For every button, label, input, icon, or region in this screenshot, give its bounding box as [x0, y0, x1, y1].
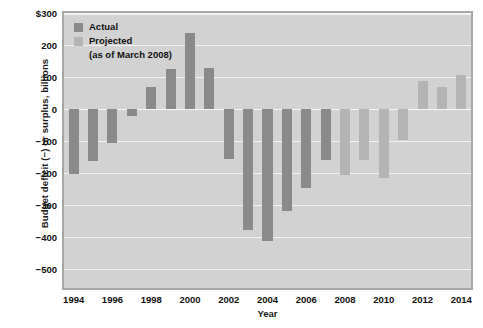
y-tick-label: −300 [9, 199, 57, 210]
budget-deficit-chart: Budget deficit (−) or surplus, billions … [0, 0, 483, 328]
legend-swatch-projected-icon [74, 37, 83, 46]
bar-1995 [88, 109, 98, 161]
bar-2010 [379, 109, 389, 178]
legend-label-projected-sublabel: (as of March 2008) [89, 48, 172, 62]
bar-2005 [282, 109, 292, 211]
bar-2009 [359, 109, 369, 160]
x-tick-label: 2000 [179, 294, 200, 305]
y-tick-label: $300 [9, 8, 57, 19]
y-tick-label: −400 [9, 231, 57, 242]
legend-label-actual: Actual [89, 20, 118, 34]
bar-1997 [127, 109, 137, 116]
bar-2000 [185, 33, 195, 108]
legend-label-projected: Projected [89, 34, 132, 48]
gridline [64, 13, 471, 15]
bar-2012 [418, 81, 428, 109]
legend-item-actual: Actual [74, 20, 172, 34]
bar-2004 [262, 109, 272, 241]
bar-1996 [107, 109, 117, 143]
bar-2014 [456, 75, 466, 109]
x-tick-label: 2004 [257, 294, 278, 305]
x-tick-label: 2006 [296, 294, 317, 305]
y-tick-label: −100 [9, 135, 57, 146]
gridline [64, 77, 471, 79]
x-tick-label: 1998 [141, 294, 162, 305]
x-tick-label: 1996 [102, 294, 123, 305]
x-tick-label: 2002 [218, 294, 239, 305]
y-tick-label: −500 [9, 263, 57, 274]
bar-2002 [224, 109, 234, 160]
y-tick-label: −200 [9, 167, 57, 178]
chart-legend: Actual Projected (as of March 2008) [74, 20, 172, 62]
gridline [64, 269, 471, 271]
legend-item-projected: Projected [74, 34, 172, 48]
bar-2011 [398, 109, 408, 140]
bar-2008 [340, 109, 350, 175]
x-tick-label: 1994 [63, 294, 84, 305]
bar-2003 [243, 109, 253, 230]
x-axis-label: Year [62, 308, 473, 319]
y-tick-label: 100 [9, 71, 57, 82]
x-tick-label: 2010 [373, 294, 394, 305]
x-tick-label: 2008 [334, 294, 355, 305]
y-tick-label: 200 [9, 39, 57, 50]
bar-2007 [321, 109, 331, 160]
y-tick-label: 0 [9, 103, 57, 114]
bar-2006 [301, 109, 311, 188]
x-tick-label: 2012 [412, 294, 433, 305]
bar-2001 [204, 68, 214, 109]
bar-1998 [146, 87, 156, 109]
x-tick-label: 2014 [451, 294, 472, 305]
plot-area: Actual Projected (as of March 2008) [62, 11, 473, 290]
bar-1999 [166, 69, 176, 109]
legend-item-projected-sub: (as of March 2008) [74, 48, 172, 62]
bar-1994 [69, 109, 79, 174]
bar-2013 [437, 87, 447, 109]
legend-swatch-actual-icon [74, 23, 83, 32]
